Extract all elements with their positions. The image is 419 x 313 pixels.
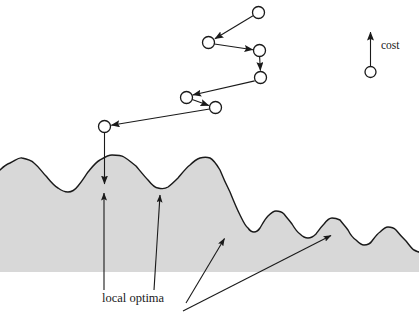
cost-axis-legend [365, 32, 376, 78]
search-node-6[interactable] [210, 102, 222, 114]
local-optima-label: local optima [102, 292, 164, 305]
trajectory-edge-3-4 [260, 57, 261, 71]
trajectory-edge-4-5 [193, 81, 255, 95]
cost-landscape [0, 155, 419, 272]
search-node-7[interactable] [99, 121, 111, 133]
trajectory-edge-5-6 [192, 100, 209, 106]
search-node-4[interactable] [255, 72, 267, 84]
trajectory-edge-1-2 [215, 16, 253, 39]
search-node-3[interactable] [254, 45, 266, 57]
figure-canvas [0, 0, 419, 313]
search-node-2[interactable] [203, 37, 215, 49]
cost-origin-node [365, 67, 376, 78]
cost-axis-label: cost [381, 40, 400, 52]
local-optima-figure: cost local optima [0, 0, 419, 313]
landscape-fill [0, 155, 419, 272]
search-node-1[interactable] [253, 7, 265, 19]
search-node-5[interactable] [181, 92, 193, 104]
trajectory-edge-2-3 [214, 44, 253, 50]
trajectory-edge-6-7 [111, 109, 209, 125]
